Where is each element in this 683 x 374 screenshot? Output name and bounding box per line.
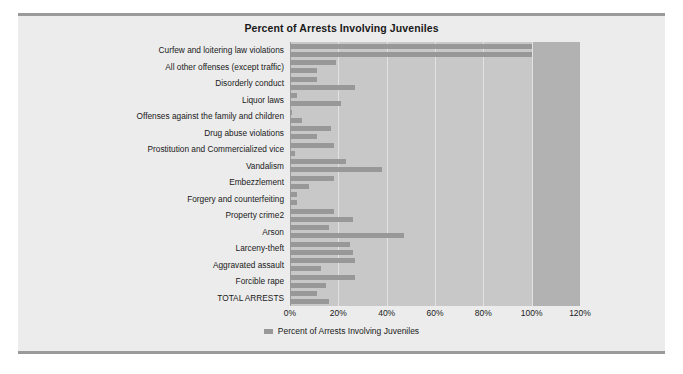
bar [290, 275, 355, 280]
plot-area [290, 42, 580, 306]
category-label: Curfew and loitering law violations [159, 45, 284, 55]
bar [290, 110, 292, 115]
bar [290, 151, 295, 156]
bar [290, 225, 329, 230]
gridline-20 [338, 42, 339, 306]
value-axis-ticks: 0%20%40%60%80%100%120% [290, 306, 580, 322]
category-label: All other offenses (except traffic) [165, 62, 284, 72]
category-label: TOTAL ARRESTS [217, 293, 284, 303]
legend-label: Percent of Arrests Involving Juveniles [278, 326, 419, 336]
category-label: Embezzlement [229, 177, 284, 187]
bar [290, 176, 334, 181]
category-label: Aggravated assault [213, 260, 284, 270]
bar [290, 68, 317, 73]
x-axis-tick-label: 100% [521, 308, 543, 318]
category-label: Arson [262, 227, 284, 237]
plot-wrapper: Curfew and loitering law violationsAll o… [18, 42, 665, 306]
bar [290, 143, 334, 148]
gridline-60 [435, 42, 436, 306]
gridline-100 [532, 42, 533, 306]
gridline-40 [387, 42, 388, 306]
bar [290, 159, 346, 164]
category-label: Prostitution and Commercialized vice [148, 144, 285, 154]
bar [290, 233, 404, 238]
bar [290, 44, 532, 49]
bar [290, 52, 532, 57]
page-root: Percent of Arrests Involving Juveniles C… [0, 0, 683, 374]
category-label: Larceny-theft [236, 243, 284, 253]
category-axis-labels: Curfew and loitering law violationsAll o… [58, 42, 290, 306]
bar [290, 250, 353, 255]
x-axis-tick-label: 80% [475, 308, 492, 318]
bar [290, 299, 329, 304]
bar [290, 93, 297, 98]
chart-legend: Percent of Arrests Involving Juveniles [18, 326, 665, 336]
category-label: Forgery and counterfeiting [187, 194, 284, 204]
x-axis-tick-label: 60% [426, 308, 443, 318]
category-label: Drug abuse violations [204, 128, 284, 138]
x-axis-tick-label: 40% [378, 308, 395, 318]
gridline-80 [483, 42, 484, 306]
x-axis-tick-label: 0% [284, 308, 296, 318]
category-label: Offenses against the family and children [137, 111, 284, 121]
bar [290, 283, 326, 288]
bar [290, 101, 341, 106]
chart-title: Percent of Arrests Involving Juveniles [18, 22, 665, 34]
bar [290, 209, 334, 214]
bar [290, 126, 331, 131]
bar [290, 192, 297, 197]
x-axis-tick-label: 120% [569, 308, 591, 318]
bar [290, 77, 317, 82]
over-100-percent-band [532, 42, 580, 306]
bar [290, 217, 353, 222]
bar [290, 242, 350, 247]
bar [290, 258, 355, 263]
category-label: Disorderly conduct [215, 78, 284, 88]
category-label: Vandalism [246, 161, 284, 171]
bar [290, 266, 321, 271]
x-axis-tick-label: 20% [330, 308, 347, 318]
legend-swatch-icon [264, 329, 273, 334]
bar [290, 184, 309, 189]
bar [290, 291, 317, 296]
bottom-divider-rule [18, 351, 665, 354]
bar [290, 85, 355, 90]
bar [290, 200, 297, 205]
category-label: Forcible rape [236, 276, 284, 286]
chart-card: Percent of Arrests Involving Juveniles C… [18, 16, 665, 351]
category-label: Property crime2 [225, 210, 284, 220]
bar [290, 60, 336, 65]
category-label: Liquor laws [242, 95, 284, 105]
bar [290, 167, 382, 172]
bar [290, 118, 302, 123]
bar [290, 134, 317, 139]
